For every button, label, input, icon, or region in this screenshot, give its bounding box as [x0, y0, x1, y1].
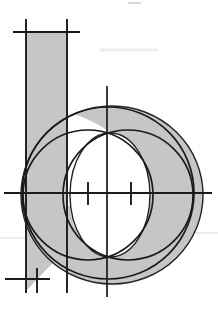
letter-construction-diagram [0, 0, 218, 311]
diagram-stage [0, 0, 218, 311]
